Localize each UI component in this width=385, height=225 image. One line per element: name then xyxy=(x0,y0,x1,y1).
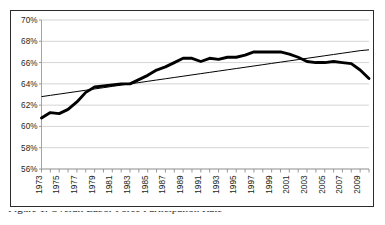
x-axis-tick-label: 2009 xyxy=(353,175,362,194)
x-axis-tick-label: 2003 xyxy=(300,175,309,194)
y-axis-tick-label: 66% xyxy=(21,59,37,68)
x-axis-tick-label: 2007 xyxy=(335,175,344,194)
line-chart: 70%68%66%64%62%60%58%56% 197319751977197… xyxy=(11,11,372,205)
x-axis-tick-label: 1991 xyxy=(194,175,203,194)
x-axis-tick-labels: 1973197519771979198119831985198719891991… xyxy=(35,175,363,194)
x-axis-tick-label: 1977 xyxy=(70,175,79,194)
x-axis-tick-label: 1987 xyxy=(158,175,167,194)
x-axis-tick-label: 1989 xyxy=(176,175,185,194)
y-axis-tick-label: 60% xyxy=(21,122,37,131)
x-axis-tick-label: 1997 xyxy=(247,175,256,194)
x-axis-tick-label: 1979 xyxy=(88,175,97,194)
x-axis-tickmarks xyxy=(42,169,370,173)
axis-lines xyxy=(42,20,370,169)
participation-rate-series xyxy=(42,52,370,118)
y-axis-tick-label: 62% xyxy=(21,101,37,110)
y-axis-tick-label: 58% xyxy=(21,144,37,153)
x-axis-tick-label: 1981 xyxy=(105,175,114,194)
x-axis-tick-label: 1999 xyxy=(265,175,274,194)
y-axis-tick-labels: 70%68%66%64%62%60%58%56% xyxy=(21,16,41,174)
x-axis-tick-label: 1975 xyxy=(52,175,61,194)
x-axis-tick-label: 1985 xyxy=(141,175,150,194)
x-axis-tick-label: 1983 xyxy=(123,175,132,194)
x-axis-tick-label: 2001 xyxy=(282,175,291,194)
y-axis-tick-label: 70% xyxy=(21,16,37,25)
gridlines-group xyxy=(42,20,370,169)
x-axis-tick-label: 1995 xyxy=(229,175,238,194)
x-axis-tick-label: 2005 xyxy=(318,175,327,194)
x-axis-tick-label: 1973 xyxy=(35,175,44,194)
chart-frame: 70%68%66%64%62%60%58%56% 197319751977197… xyxy=(10,10,374,207)
x-axis-tick-label: 1993 xyxy=(212,175,221,194)
figure-container: 70%68%66%64%62%60%58%56% 197319751977197… xyxy=(0,0,385,225)
figure-caption-strip: Figure 1. Overall Labor Force Participat… xyxy=(8,211,378,225)
figure-caption: Figure 1. Overall Labor Force Participat… xyxy=(8,211,378,215)
y-axis-tick-label: 68% xyxy=(21,37,37,46)
y-axis-tick-label: 64% xyxy=(21,80,37,89)
y-axis-tick-label: 56% xyxy=(21,165,37,174)
